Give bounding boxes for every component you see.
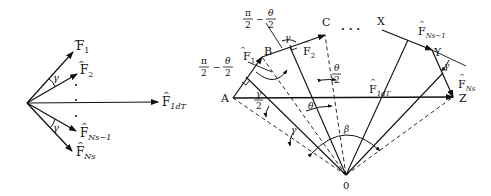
left-labels: F1 F2 F1dT FNs−1 FNs γ γ ^ ^ ^ ^ ^ [53,38,187,161]
vector-fns [27,103,72,151]
angle-label-beta: β [343,124,349,134]
point-a: A [220,92,230,105]
hat-f2: ^ [78,59,85,68]
hat-f1-right: ^ [240,46,246,54]
hat-fns-right: ^ [459,73,465,81]
vector-f1dt [27,102,158,103]
hat-f1dt-right: ^ [370,78,376,86]
svg-text:θ: θ [334,63,340,73]
angle-label-gamma-b: γ [285,33,291,43]
point-b: B [264,45,272,58]
bisector-yz [346,73,443,175]
hat-fns-1: ^ [81,121,88,130]
hat-f1: ^ [73,38,80,47]
left-dots [75,84,77,117]
svg-text:−: − [256,14,264,24]
gamma-label-lower: γ [53,122,59,133]
diagram-canvas: F1 F2 F1dT FNs−1 FNs γ γ ^ ^ ^ ^ ^ [0,0,491,196]
angle-label-pi-theta-lower: π 2 − θ 2 [199,56,233,78]
vector-f2 [27,74,77,103]
svg-text:2: 2 [256,101,262,111]
svg-text:−: − [213,62,221,72]
angle-label-pi-theta-upper: π 2 − θ 2 [243,8,276,30]
svg-text:γ: γ [256,89,262,99]
hat-fns: ^ [77,140,84,149]
svg-text:2: 2 [245,20,251,30]
bisector-xy [346,40,408,175]
svg-text:π: π [245,8,251,18]
gamma-label-upper: γ [53,72,59,83]
point-z: Z [459,92,467,105]
point-c: C [322,16,330,29]
dashed-oc [325,35,346,175]
point-o: 0 [343,180,349,191]
angle-label-gamma-o: γ [291,125,297,135]
angle-label-theta-half: θ 2 [332,63,341,85]
svg-text:π: π [201,56,207,66]
svg-text:2: 2 [268,20,274,30]
svg-text:2: 2 [225,68,231,78]
angle-label-gamma-y: γ [444,61,450,71]
svg-text:θ: θ [225,56,231,66]
vector-f1 [27,52,73,103]
hat-f2-right: ^ [304,40,310,48]
hat-fns-1-right: ^ [419,20,425,28]
dashed-oz [346,97,453,175]
svg-text:θ: θ [268,8,274,18]
point-y: Y [433,46,442,59]
angle-label-theta: θ [308,101,314,111]
svg-text:2: 2 [334,75,340,85]
svg-text:2: 2 [201,68,207,78]
hat-f1dt: ^ [163,90,170,99]
arc-gamma-half [266,106,269,117]
point-x: X [377,15,385,28]
ellipsis: · · · [341,23,360,36]
